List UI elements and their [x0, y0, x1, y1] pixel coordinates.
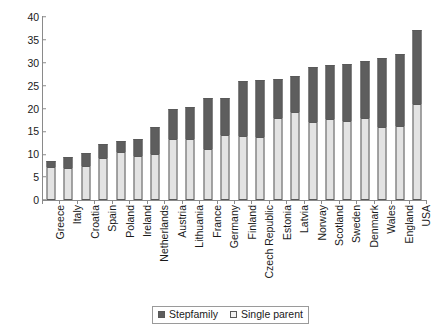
dark-square-swatch	[158, 311, 165, 318]
bar-stack[interactable]	[256, 80, 265, 200]
bar-stack[interactable]	[46, 161, 55, 200]
bar-segment-stepfamily[interactable]	[238, 81, 247, 136]
bar-segment-stepfamily[interactable]	[133, 139, 142, 156]
bar-segment-single-parent[interactable]	[343, 121, 352, 200]
bar-segment-single-parent[interactable]	[413, 104, 422, 200]
bar-segment-stepfamily[interactable]	[395, 54, 404, 126]
bar-slot	[217, 17, 234, 200]
legend-item[interactable]: Single parent	[230, 309, 303, 320]
x-axis-tick-label: Denmark	[369, 205, 380, 248]
bar-stack[interactable]	[343, 64, 352, 200]
bar-segment-single-parent[interactable]	[168, 139, 177, 200]
bar-segment-single-parent[interactable]	[99, 158, 108, 200]
bar-segment-single-parent[interactable]	[291, 112, 300, 200]
bar-slot	[59, 17, 76, 200]
bar-slot	[304, 17, 321, 200]
x-axis-tick-label: Germany	[229, 205, 240, 248]
bar-segment-single-parent[interactable]	[325, 119, 334, 200]
x-axis-tick-mark	[164, 200, 165, 204]
bar-slot	[251, 17, 268, 200]
x-axis-tick-label: France	[212, 205, 223, 238]
x-axis-tick-label: Scotland	[334, 205, 345, 246]
x-axis-tick-mark	[77, 200, 78, 204]
bar-segment-single-parent[interactable]	[308, 122, 317, 200]
bar-stack[interactable]	[203, 98, 212, 200]
x-axis-tick-mark	[304, 200, 305, 204]
y-axis-tick: 35	[28, 35, 42, 46]
bar-stack[interactable]	[81, 153, 90, 200]
bar-segment-stepfamily[interactable]	[343, 64, 352, 122]
bar-slot	[269, 17, 286, 200]
bar-segment-stepfamily[interactable]	[221, 98, 230, 135]
bar-stack[interactable]	[378, 58, 387, 200]
x-axis-tick-mark	[112, 200, 113, 204]
bar-segment-stepfamily[interactable]	[413, 30, 422, 104]
bar-segment-single-parent[interactable]	[221, 135, 230, 200]
bar-segment-stepfamily[interactable]	[378, 58, 387, 127]
bar-segment-single-parent[interactable]	[133, 156, 142, 200]
bar-stack[interactable]	[325, 65, 334, 200]
x-axis-tick-label: Latvia	[299, 205, 310, 233]
bar-segment-stepfamily[interactable]	[325, 65, 334, 120]
y-axis-tick-label: 15	[28, 126, 42, 137]
legend-item[interactable]: Stepfamily	[158, 309, 218, 320]
x-axis-tick-label: Norway	[317, 205, 328, 241]
bar-stack[interactable]	[395, 54, 404, 200]
bar-segment-stepfamily[interactable]	[360, 61, 369, 118]
bar-segment-stepfamily[interactable]	[273, 79, 282, 118]
y-axis-tick-label: 35	[28, 35, 42, 46]
bar-slot	[234, 17, 251, 200]
bar-segment-stepfamily[interactable]	[291, 76, 300, 113]
bar-segment-stepfamily[interactable]	[151, 127, 160, 154]
bar-segment-single-parent[interactable]	[151, 154, 160, 200]
bar-stack[interactable]	[238, 81, 247, 200]
bar-segment-single-parent[interactable]	[238, 136, 247, 200]
bar-stack[interactable]	[99, 144, 108, 200]
bar-series-group	[42, 17, 426, 200]
bar-stack[interactable]	[64, 157, 73, 200]
x-axis-tick-label: Czech Republic	[264, 205, 275, 279]
bar-segment-stepfamily[interactable]	[168, 109, 177, 138]
bar-segment-single-parent[interactable]	[203, 149, 212, 200]
x-axis-tick-label: Italy	[72, 205, 83, 224]
bar-segment-single-parent[interactable]	[64, 168, 73, 200]
bar-slot	[42, 17, 59, 200]
bar-stack[interactable]	[116, 141, 125, 200]
bar-segment-single-parent[interactable]	[46, 167, 55, 200]
bar-segment-single-parent[interactable]	[81, 166, 90, 200]
bar-segment-stepfamily[interactable]	[186, 107, 195, 139]
x-axis-tick-label: Finland	[247, 205, 258, 239]
bar-stack[interactable]	[273, 79, 282, 200]
bar-segment-stepfamily[interactable]	[64, 157, 73, 168]
bar-segment-single-parent[interactable]	[116, 152, 125, 200]
bar-segment-single-parent[interactable]	[360, 118, 369, 200]
bar-stack[interactable]	[221, 98, 230, 200]
bar-segment-stepfamily[interactable]	[116, 141, 125, 153]
bar-segment-single-parent[interactable]	[378, 127, 387, 200]
bar-slot	[391, 17, 408, 200]
bar-stack[interactable]	[291, 76, 300, 200]
y-axis-tick: 30	[28, 58, 42, 69]
y-axis-tick-label: 40	[28, 12, 42, 23]
bar-stack[interactable]	[168, 109, 177, 200]
bar-stack[interactable]	[360, 61, 369, 200]
bar-slot	[321, 17, 338, 200]
bar-segment-stepfamily[interactable]	[203, 98, 212, 148]
bar-segment-single-parent[interactable]	[395, 126, 404, 200]
bar-segment-single-parent[interactable]	[273, 118, 282, 200]
bar-stack[interactable]	[413, 30, 422, 200]
bar-segment-stepfamily[interactable]	[99, 144, 108, 158]
bar-segment-stepfamily[interactable]	[256, 80, 265, 137]
bar-stack[interactable]	[186, 107, 195, 200]
bar-stack[interactable]	[308, 67, 317, 200]
bar-stack[interactable]	[133, 139, 142, 200]
x-axis-tick-mark	[147, 200, 148, 204]
bar-slot	[77, 17, 94, 200]
bar-segment-stepfamily[interactable]	[308, 67, 317, 122]
bar-segment-stepfamily[interactable]	[81, 153, 90, 166]
bar-segment-single-parent[interactable]	[186, 139, 195, 200]
x-axis-tick-label: England	[404, 205, 415, 244]
bar-segment-single-parent[interactable]	[256, 137, 265, 200]
x-axis-tick-mark	[286, 200, 287, 204]
bar-stack[interactable]	[151, 127, 160, 200]
